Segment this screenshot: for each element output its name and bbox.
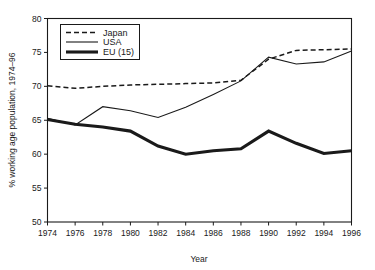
y-tick-label: 80 [32, 14, 42, 24]
line-chart: 50556065707580 1974197619781980198219841… [0, 0, 375, 270]
x-tick-label: 1996 [342, 228, 361, 238]
x-axis-title: Year [190, 254, 207, 264]
x-tick-label: 1992 [287, 228, 306, 238]
y-tick-label: 50 [32, 217, 42, 227]
x-tick-label: 1978 [93, 228, 112, 238]
y-tick-label: 55 [32, 183, 42, 193]
x-tick-label: 1994 [314, 228, 333, 238]
x-tick-label: 1982 [149, 228, 168, 238]
y-tick-label: 65 [32, 115, 42, 125]
y-tick-label: 75 [32, 47, 42, 57]
y-axis-title: % working age population, 1974–96 [7, 52, 17, 187]
x-tick-label: 1986 [204, 228, 223, 238]
y-tick-label: 60 [32, 149, 42, 159]
x-tick-label: 1976 [66, 228, 85, 238]
x-tick-label: 1974 [38, 228, 57, 238]
x-tick-label: 1988 [231, 228, 250, 238]
legend-label-usa: USA [103, 37, 122, 47]
legend-label-japan: Japan [103, 28, 128, 38]
legend-label-eu: EU (15) [103, 47, 134, 57]
x-tick-label: 1984 [176, 228, 195, 238]
x-tick-label: 1980 [121, 228, 140, 238]
y-tick-label: 70 [32, 81, 42, 91]
legend: Japan USA EU (15) [61, 25, 140, 60]
chart-container: 50556065707580 1974197619781980198219841… [0, 0, 375, 270]
x-tick-label: 1990 [259, 228, 278, 238]
